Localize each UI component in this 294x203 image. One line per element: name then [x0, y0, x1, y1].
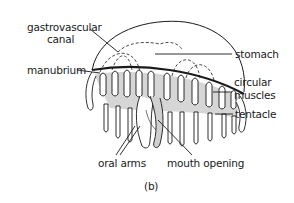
label-stomach: stomach — [235, 48, 279, 60]
label-circular-muscles-line1: circular — [234, 76, 271, 88]
label-manubrium: manubrium — [27, 64, 86, 76]
figure-caption: (b) — [144, 180, 158, 192]
label-gastrovascular-canal-line1: gastrovascular — [27, 21, 102, 33]
label-gastrovascular-canal-line2: canal — [47, 33, 74, 45]
jellyfish-diagram: gastrovascular canal manubrium stomach c… — [0, 0, 294, 203]
label-oral-arms: oral arms — [98, 157, 146, 169]
label-mouth-opening: mouth opening — [167, 157, 244, 169]
label-circular-muscles-line2: muscles — [234, 89, 276, 101]
label-tentacle: tentacle — [235, 108, 276, 120]
canal-dashed-3 — [118, 42, 182, 52]
